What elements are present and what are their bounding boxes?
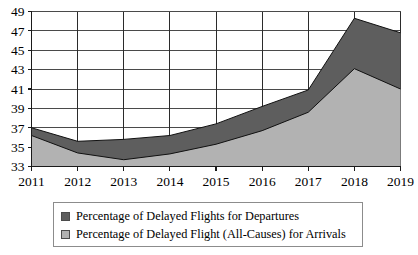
- x-axis-tick-label: 2014: [156, 174, 183, 189]
- legend-item-departures: Percentage of Delayed Flights for Depart…: [61, 207, 356, 225]
- y-axis-tick-label: 47: [11, 24, 25, 39]
- x-axis-tick-label: 2019: [387, 174, 414, 189]
- x-axis-tick-label: 2012: [64, 174, 91, 189]
- x-axis-tick-label: 2018: [341, 174, 368, 189]
- y-axis-tick-label: 35: [11, 140, 25, 155]
- y-axis-tick-label: 41: [11, 82, 25, 97]
- x-axis-tick-label: 2015: [203, 174, 230, 189]
- x-axis-tick-labels: 201120122013201420152016201720182019: [18, 174, 414, 189]
- y-axis-tick-label: 39: [11, 101, 25, 116]
- y-axis-tick-label: 37: [11, 121, 25, 136]
- x-axis-tick-label: 2017: [295, 174, 322, 189]
- x-axis-tick-label: 2013: [110, 174, 137, 189]
- y-axis-tick-label: 49: [11, 4, 25, 19]
- legend-swatch-arrivals: [61, 230, 70, 239]
- y-axis-tick-label: 43: [11, 62, 25, 77]
- y-axis-tick-labels: 333537394143454749: [11, 4, 25, 174]
- plot-area: 333537394143454749 201120122013201420152…: [0, 0, 418, 196]
- legend-label-departures: Percentage of Delayed Flights for Depart…: [76, 210, 299, 222]
- chart-legend: Percentage of Delayed Flights for Depart…: [53, 202, 363, 247]
- y-axis-tick-label: 33: [11, 159, 25, 174]
- x-axis-tick-label: 2011: [18, 174, 45, 189]
- x-axis-tick-label: 2016: [249, 174, 276, 189]
- legend-label-arrivals: Percentage of Delayed Flight (All-Causes…: [76, 228, 346, 240]
- area-chart-svg: 333537394143454749 201120122013201420152…: [0, 0, 418, 196]
- legend-swatch-departures: [61, 212, 70, 221]
- legend-item-arrivals: Percentage of Delayed Flight (All-Causes…: [61, 225, 356, 243]
- y-axis-tick-label: 45: [11, 43, 25, 58]
- chart-container: 333537394143454749 201120122013201420152…: [0, 0, 418, 255]
